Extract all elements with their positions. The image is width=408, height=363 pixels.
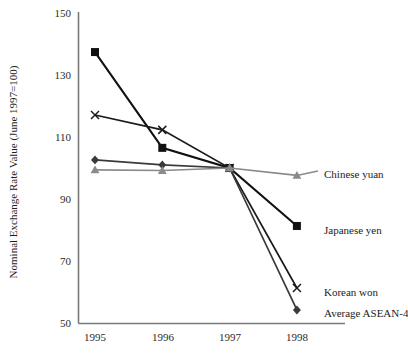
square-marker — [91, 48, 99, 56]
x-tick-1998: 1998 — [286, 331, 309, 343]
x-tick-1995: 1995 — [84, 331, 107, 343]
diamond-marker — [293, 306, 301, 315]
series-line — [95, 115, 297, 288]
y-tick-70: 70 — [60, 255, 72, 267]
series-line — [95, 168, 297, 175]
y-tick-110: 110 — [55, 131, 72, 143]
x-tick-1997: 1997 — [219, 331, 242, 343]
x-tick-1996: 1996 — [152, 331, 175, 343]
diamond-marker — [91, 156, 99, 165]
square-marker — [293, 222, 301, 230]
x-axis-tick-labels: 1995 1996 1997 1998 — [84, 331, 309, 343]
series-japanese-yen — [91, 48, 301, 230]
square-marker — [158, 144, 166, 152]
y-axis-tick-labels: 150 130 110 90 70 50 — [55, 7, 72, 329]
exchange-rate-line-chart: Nominal Exchange Rate Value (June 1997=1… — [0, 0, 408, 363]
y-tick-150: 150 — [55, 7, 72, 19]
y-tick-130: 130 — [55, 69, 72, 81]
chart-canvas: Nominal Exchange Rate Value (June 1997=1… — [0, 0, 408, 363]
series-inline-labels: Chinese yuan Japanese yen Korean won Ave… — [324, 168, 408, 319]
y-axis-title: Nominal Exchange Rate Value (June 1997=1… — [7, 65, 20, 278]
series-layer — [91, 48, 302, 314]
series-label-korean-won: Korean won — [324, 286, 379, 298]
leader-line — [297, 171, 318, 175]
y-tick-50: 50 — [60, 317, 72, 329]
leader-line-layer — [297, 171, 318, 175]
y-tick-90: 90 — [60, 193, 72, 205]
series-label-japanese-yen: Japanese yen — [324, 224, 382, 236]
series-average-asean-4 — [91, 156, 301, 315]
series-label-chinese-yuan: Chinese yuan — [324, 168, 384, 180]
x-cross-marker — [293, 284, 301, 292]
series-label-average-asean-4: Average ASEAN-4 — [324, 307, 408, 319]
series-line — [95, 52, 297, 226]
